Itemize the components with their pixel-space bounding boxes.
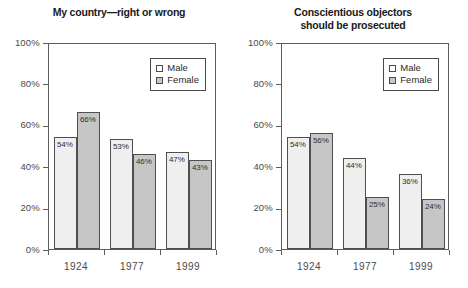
chart-title-left: My country—right or wrong <box>10 6 228 19</box>
bar-female-1999: 24% <box>422 199 445 249</box>
legend-label-female: Female <box>400 74 432 86</box>
chart-title-left-line1: My country—right or wrong <box>53 6 186 18</box>
legend-label-male: Male <box>400 62 421 74</box>
bar-female-1977: 25% <box>366 197 389 249</box>
bar-female-1924: 56% <box>310 133 333 249</box>
y-tick-label: 40% <box>20 161 40 172</box>
bar-value-label: 54% <box>290 140 306 149</box>
bar-male-1977: 44% <box>343 158 366 249</box>
y-tick-label: 40% <box>253 161 273 172</box>
y-tick-label: 0% <box>26 244 40 255</box>
bar-male-1999: 36% <box>399 174 422 249</box>
legend-swatch-female-icon <box>156 77 163 84</box>
x-tick-mark <box>337 250 338 255</box>
bar-value-label: 43% <box>192 163 208 172</box>
x-tick-label-1924: 1924 <box>297 261 321 272</box>
y-axis-left: 0%20%40%60%80%100% <box>0 43 48 250</box>
x-tick-mark <box>281 250 282 255</box>
chart-title-right-line1: Conscientious objectors <box>294 6 412 18</box>
y-tick-label: 20% <box>20 202 40 213</box>
chart-panel-left: My country—right or wrong 0%20%40%60%80%… <box>0 0 234 288</box>
legend-right: Male Female <box>383 58 439 91</box>
bar-value-label: 47% <box>169 155 185 164</box>
legend-item-male: Male <box>156 62 199 74</box>
x-axis-right: 192419771999 <box>281 250 449 284</box>
legend-label-male: Male <box>167 62 188 74</box>
bar-male-1999: 47% <box>166 152 189 249</box>
y-tick-label: 0% <box>259 244 273 255</box>
bar-male-1924: 54% <box>54 137 77 249</box>
bar-value-label: 36% <box>402 177 418 186</box>
x-tick-label-1999: 1999 <box>176 261 200 272</box>
x-axis-left: 192419771999 <box>48 250 216 284</box>
y-tick-label: 100% <box>248 37 273 48</box>
legend-item-male: Male <box>389 62 432 74</box>
plot-area-right: 54%56%44%25%36%24% Male Female <box>281 43 449 250</box>
legend-swatch-male-icon <box>389 65 396 72</box>
y-tick-label: 20% <box>253 202 273 213</box>
legend-label-female: Female <box>167 74 199 86</box>
legend-left: Male Female <box>150 58 206 91</box>
bar-value-label: 56% <box>313 136 329 145</box>
bar-female-1924: 66% <box>77 112 100 249</box>
legend-item-female: Female <box>156 74 199 86</box>
legend-swatch-female-icon <box>389 77 396 84</box>
x-tick-label-1977: 1977 <box>120 261 144 272</box>
legend-swatch-male-icon <box>156 65 163 72</box>
chart-panel-right: Conscientious objectors should be prosec… <box>234 0 468 288</box>
x-tick-mark <box>104 250 105 255</box>
x-tick-label-1977: 1977 <box>353 261 377 272</box>
legend-item-female: Female <box>389 74 432 86</box>
bar-female-1977: 46% <box>133 154 156 249</box>
x-tick-mark <box>160 250 161 255</box>
bar-value-label: 44% <box>346 161 362 170</box>
figure-two-bar-charts: My country—right or wrong 0%20%40%60%80%… <box>0 0 468 288</box>
bar-value-label: 46% <box>136 157 152 166</box>
chart-title-right: Conscientious objectors should be prosec… <box>244 6 462 31</box>
y-tick-label: 100% <box>15 37 40 48</box>
bar-value-label: 54% <box>57 140 73 149</box>
x-tick-mark <box>216 250 217 255</box>
bar-value-label: 25% <box>369 200 385 209</box>
chart-title-right-line2: should be prosecuted <box>244 19 462 32</box>
x-tick-label-1999: 1999 <box>409 261 433 272</box>
bar-value-label: 53% <box>113 142 129 151</box>
x-tick-mark <box>48 250 49 255</box>
y-tick-label: 80% <box>20 78 40 89</box>
y-tick-label: 60% <box>253 119 273 130</box>
x-tick-label-1924: 1924 <box>64 261 88 272</box>
plot-area-left: 54%66%53%46%47%43% Male Female <box>48 43 216 250</box>
y-tick-label: 80% <box>253 78 273 89</box>
bar-value-label: 24% <box>425 202 441 211</box>
bar-female-1999: 43% <box>189 160 212 249</box>
y-tick-label: 60% <box>20 119 40 130</box>
x-tick-mark <box>449 250 450 255</box>
y-axis-right: 0%20%40%60%80%100% <box>234 43 281 250</box>
bar-value-label: 66% <box>80 115 96 124</box>
bar-male-1977: 53% <box>110 139 133 249</box>
x-tick-mark <box>393 250 394 255</box>
bar-male-1924: 54% <box>287 137 310 249</box>
